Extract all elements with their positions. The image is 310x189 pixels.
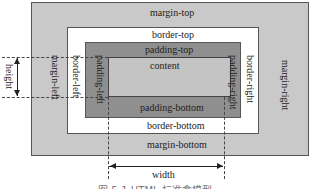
height-guide-bottom: [2, 97, 108, 98]
margin-right-label: margin-right: [280, 60, 290, 110]
margin-bottom-label: margin-bottom: [147, 140, 207, 150]
border-right-label: border-right: [245, 55, 255, 103]
arrow-left-icon: [110, 163, 116, 169]
padding-top-label: padding-top: [145, 45, 193, 55]
height-label: height: [4, 64, 14, 89]
width-guide-right: [224, 97, 225, 179]
margin-left-label: margin-left: [50, 55, 60, 100]
border-bottom-label: border-bottom: [147, 121, 205, 131]
arrow-down-icon: [14, 90, 20, 96]
border-left-label: border-left: [71, 55, 81, 98]
arrow-right-icon: [217, 163, 223, 169]
border-top-label: border-top: [152, 30, 194, 40]
padding-right-label: padding-right: [228, 55, 238, 109]
padding-bottom-label: padding-bottom: [140, 103, 204, 113]
figure-caption: 图 5-1 HTML 标准盒模型: [0, 182, 310, 189]
margin-top-label: margin-top: [150, 8, 194, 18]
width-arrow: [109, 166, 223, 167]
width-label: width: [152, 170, 175, 180]
content-label: content: [150, 61, 179, 71]
